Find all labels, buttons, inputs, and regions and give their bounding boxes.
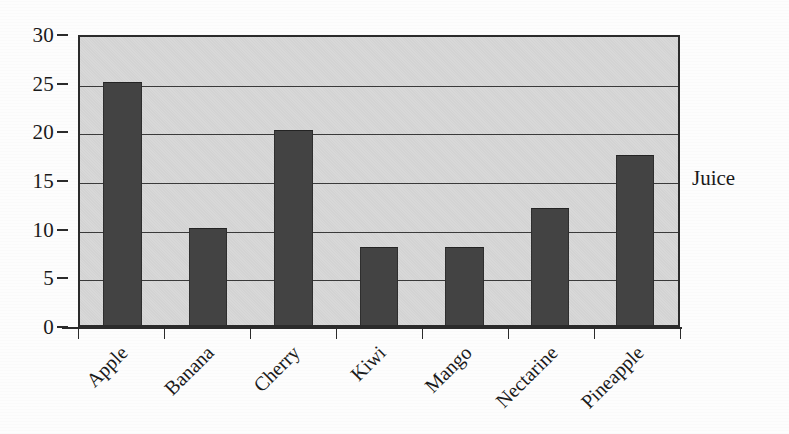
bar-pineapple [616, 155, 654, 325]
bar-mango [445, 247, 483, 325]
bar-nectarine [531, 208, 569, 325]
y-tick-mark [57, 229, 68, 231]
bars-container [80, 37, 678, 325]
bar-apple [103, 82, 141, 325]
x-label-slot: Pineapple [594, 338, 680, 434]
x-label-slot: Banana [164, 338, 250, 434]
bar-chart-figure: 051015202530 AppleBananaCherryKiwiMangoN… [0, 0, 789, 434]
x-tick-mark [680, 329, 681, 339]
y-tick-mark [57, 83, 68, 85]
y-tick-label: 5 [43, 268, 54, 289]
x-tick-label-text: Apple [82, 342, 131, 391]
bar-slot [251, 37, 336, 325]
bar-slot [507, 37, 592, 325]
y-tick-label: 20 [33, 122, 54, 143]
y-tick-label: 30 [33, 25, 54, 46]
y-tick-label: 0 [43, 317, 54, 338]
y-tick-mark [57, 34, 68, 36]
y-tick-mark [57, 180, 68, 182]
x-tick-label-text: Mango [421, 342, 475, 396]
y-tick-label: 10 [33, 219, 54, 240]
x-label-slot: Nectarine [508, 338, 594, 434]
x-axis-labels: AppleBananaCherryKiwiMangoNectarinePinea… [78, 338, 680, 434]
bar-cherry [274, 130, 312, 325]
bar-slot [422, 37, 507, 325]
y-tick-label: 15 [33, 171, 54, 192]
y-axis: 051015202530 [0, 35, 68, 327]
x-label-slot: Cherry [250, 338, 336, 434]
bar-banana [189, 228, 227, 325]
series-label-juice: Juice [692, 168, 735, 189]
x-tick-label-text: Banana [161, 342, 218, 399]
plot-area [78, 35, 680, 327]
y-tick-mark [57, 277, 68, 279]
bar-slot [593, 37, 678, 325]
bar-slot [80, 37, 165, 325]
x-tick-label-text: Cherry [250, 342, 303, 395]
bar-slot [165, 37, 250, 325]
y-tick-label: 25 [33, 73, 54, 94]
bar-kiwi [360, 247, 398, 325]
x-label-slot: Mango [422, 338, 508, 434]
x-label-slot: Kiwi [336, 338, 422, 434]
y-tick-mark [57, 131, 68, 133]
x-label-slot: Apple [78, 338, 164, 434]
bar-slot [336, 37, 421, 325]
x-tick-label-text: Kiwi [347, 342, 389, 384]
